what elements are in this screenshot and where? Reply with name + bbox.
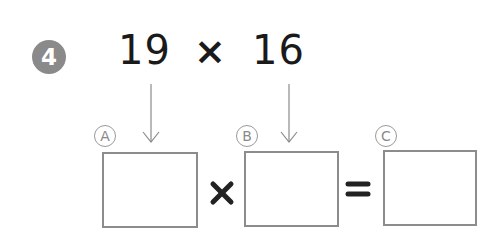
label-a: A <box>94 125 116 147</box>
label-c: C <box>375 125 397 147</box>
multiply-sign <box>209 180 235 206</box>
answer-box-b[interactable] <box>244 151 339 227</box>
answer-box-c[interactable] <box>383 150 477 226</box>
label-b: B <box>236 125 258 147</box>
factor-b: 16 <box>252 26 305 74</box>
problem-number-badge: 4 <box>32 40 66 74</box>
equals-sign <box>345 180 371 200</box>
arrow-down-icon <box>278 82 300 146</box>
arrow-down-icon <box>140 82 162 146</box>
multiply-sign-top: × <box>194 27 226 75</box>
answer-box-a[interactable] <box>102 152 198 228</box>
factor-a: 19 <box>118 26 171 74</box>
